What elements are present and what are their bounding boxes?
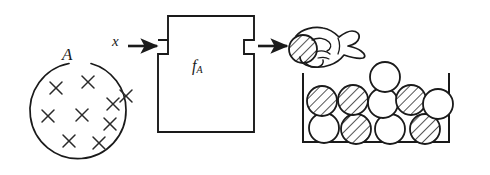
set-A-label: A xyxy=(62,46,72,63)
function-box-left-notch-edge xyxy=(158,40,168,54)
element-x-mark xyxy=(76,109,88,121)
ball-hatched xyxy=(338,85,368,115)
ball-container xyxy=(303,62,453,144)
element-x-mark xyxy=(93,137,105,149)
element-x-mark xyxy=(50,82,62,94)
ball-white xyxy=(423,89,453,119)
input-variable-label: x xyxy=(112,34,119,49)
physics-measurement-diagram xyxy=(0,0,490,175)
element-x-mark xyxy=(42,110,54,122)
ball-hatched xyxy=(341,114,371,144)
element-x-mark xyxy=(107,98,119,110)
element-x-mark xyxy=(104,118,116,130)
function-box-label: fA xyxy=(192,58,203,75)
element-x-mark xyxy=(82,76,94,88)
hand-holding-ball xyxy=(289,27,365,67)
element-x-mark xyxy=(120,90,132,102)
ball-white xyxy=(309,113,339,143)
container-balls-top-row xyxy=(370,62,400,92)
function-box xyxy=(158,16,254,132)
set-A-group xyxy=(30,64,132,159)
element-x-mark xyxy=(63,135,75,147)
function-box-label-subscript: A xyxy=(196,64,202,75)
ball-hatched xyxy=(307,86,337,116)
container-balls-bottom-row xyxy=(309,113,440,144)
ball-hatched xyxy=(396,85,426,115)
ball-white xyxy=(370,62,400,92)
